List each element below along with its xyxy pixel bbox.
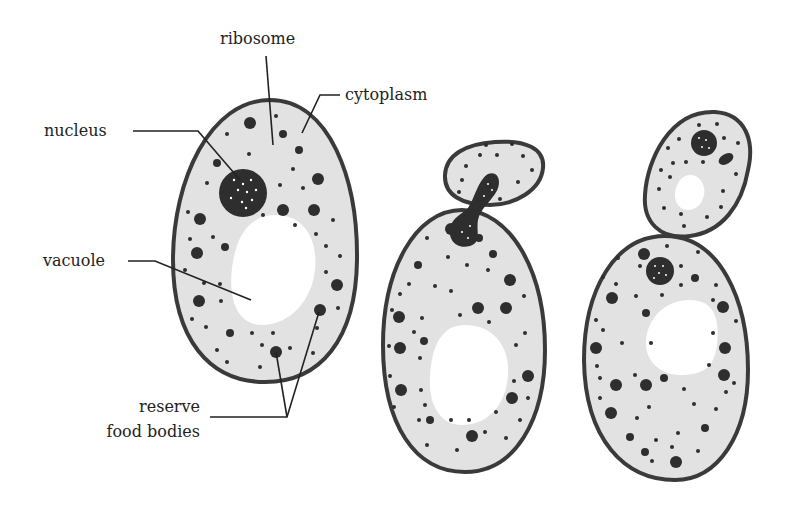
cell-mature <box>173 100 357 382</box>
label-cytoplasm: cytoplasm <box>345 85 427 104</box>
label-nucleus: nucleus <box>44 121 107 140</box>
yeast-diagram: ribosome cytoplasm nucleus vacuole reser… <box>0 0 794 511</box>
cell-separated <box>584 112 750 480</box>
cell-budding <box>383 142 545 472</box>
label-food-bodies: food bodies <box>107 422 200 441</box>
label-ribosome: ribosome <box>220 29 295 48</box>
label-reserve: reserve <box>139 397 200 416</box>
label-vacuole: vacuole <box>42 251 105 270</box>
nucleus-shape <box>219 169 267 217</box>
